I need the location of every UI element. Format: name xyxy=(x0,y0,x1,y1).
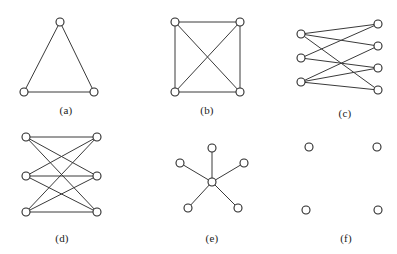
graph-edge xyxy=(305,59,374,68)
graph-node xyxy=(374,86,382,94)
graph-node xyxy=(171,88,179,96)
node-group-f xyxy=(302,143,382,214)
graph-node xyxy=(302,206,310,214)
edge-group-c xyxy=(304,25,375,90)
edge-group-d xyxy=(29,137,95,212)
graph-edge xyxy=(305,82,374,89)
graph-node xyxy=(374,206,382,214)
graph-node xyxy=(20,88,28,96)
graph-node xyxy=(22,133,30,141)
edge-group-b xyxy=(175,22,240,92)
graph-node xyxy=(236,88,244,96)
graph-node xyxy=(22,172,30,180)
graph-node xyxy=(208,178,216,186)
graph-panel-e xyxy=(176,144,248,212)
graph-edge xyxy=(26,26,58,89)
graph-panel-d xyxy=(22,133,101,216)
graph-panel-a xyxy=(20,18,98,96)
graph-node xyxy=(208,144,216,152)
graph-node xyxy=(184,204,192,212)
graph-edge xyxy=(305,35,374,46)
graph-figure: (a)(b)(c)(d)(e)(f) xyxy=(0,0,397,254)
graph-node xyxy=(93,208,101,216)
graph-node xyxy=(93,172,101,180)
graph-node xyxy=(374,20,382,28)
graph-edge xyxy=(191,185,210,205)
graph-node xyxy=(90,88,98,96)
graph-node xyxy=(305,143,313,151)
graph-node xyxy=(373,143,381,151)
graph-node xyxy=(374,42,382,50)
graph-node xyxy=(297,78,305,86)
graph-node xyxy=(171,18,179,26)
graph-node xyxy=(93,133,101,141)
graph-node xyxy=(297,30,305,38)
graph-edge xyxy=(305,26,375,57)
edge-group-a xyxy=(26,26,92,92)
graph-node xyxy=(236,18,244,26)
graph-node xyxy=(234,204,242,212)
graph-node xyxy=(297,54,305,62)
graph-node xyxy=(176,159,184,167)
graph-panel-b xyxy=(171,18,244,96)
graph-edge xyxy=(183,165,208,180)
graph-node xyxy=(374,64,382,72)
graph-panel-c xyxy=(297,20,382,94)
graph-edge xyxy=(305,25,374,34)
node-group-a xyxy=(20,18,98,96)
graph-edge xyxy=(215,165,240,180)
graph-edge xyxy=(215,185,235,205)
graph-edge xyxy=(62,26,93,89)
graph-node xyxy=(22,208,30,216)
graph-node xyxy=(56,18,64,26)
graph-panel-f xyxy=(302,143,382,214)
graph-canvas xyxy=(0,0,397,254)
graph-node xyxy=(240,159,248,167)
